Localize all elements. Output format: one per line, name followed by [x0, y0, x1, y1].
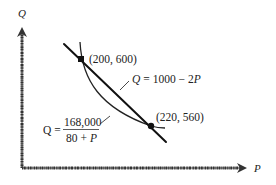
hyperbolic-equation-pointer [100, 116, 110, 124]
denominator-const: 80 + [66, 132, 87, 144]
demand-diagram: Q P (200, 600) (220, 560) Q= 1000 − 2P Q… [0, 0, 276, 185]
point-marker-220-560 [148, 123, 154, 129]
hyperbolic-equation-denominator: 80 +P [66, 132, 97, 144]
linear-equation-lhs: Q [132, 73, 141, 85]
hyperbolic-demand-equation: Q = 168,000 80 +P [43, 116, 102, 144]
point-label-200-600: (200, 600) [89, 53, 137, 66]
y-axis-label: Q [18, 7, 26, 19]
linear-equation-var: P [193, 73, 201, 85]
hyperbolic-equation-numerator: 168,000 [64, 116, 102, 129]
y-axis [17, 27, 27, 168]
x-axis [22, 163, 247, 173]
linear-equation-rhs: = 1000 − 2 [143, 73, 194, 85]
point-label-220-560: (220, 560) [156, 111, 204, 124]
x-axis-label: P [253, 162, 261, 174]
denominator-var: P [89, 132, 97, 144]
point-marker-200-600 [78, 56, 84, 62]
linear-equation-pointer [120, 81, 129, 90]
linear-demand-equation: Q= 1000 − 2P [132, 73, 201, 85]
hyperbolic-equation-lhs: Q = [43, 124, 61, 136]
